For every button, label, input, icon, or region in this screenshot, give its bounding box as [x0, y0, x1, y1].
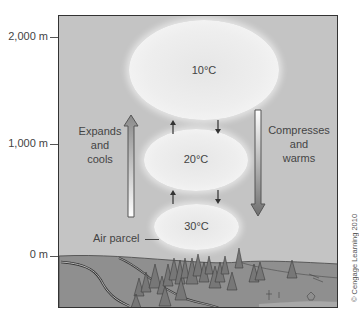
sinking-arrow-icon: [250, 109, 266, 217]
callout-leader-line: [145, 239, 159, 240]
axis-label-0m: 0 m: [0, 248, 48, 260]
expands-and-cools-label: Expands and cools: [77, 124, 123, 166]
axis-tick-0m: [50, 256, 58, 257]
parcel-temp-20c: 20°C: [144, 153, 248, 165]
axis-label-2000m: 2,000 m: [0, 30, 48, 42]
small-down-arrow-icon: [215, 120, 221, 134]
diagram-frame: 10°C 20°C 30°C Expands and cools Compr: [58, 15, 338, 308]
warms-text: warms: [265, 151, 333, 165]
cools-text: cools: [77, 152, 123, 166]
and-text-left: and: [77, 138, 123, 152]
small-up-arrow-icon: [170, 120, 176, 134]
copyright-credit: © Cengage Learning 2010: [341, 222, 351, 302]
parcel-temp-30c: 30°C: [154, 220, 239, 232]
axis-tick-2000m: [50, 37, 58, 38]
expands-text: Expands: [77, 124, 123, 138]
air-parcel-20c: 20°C: [144, 129, 248, 191]
compresses-and-warms-label: Compresses and warms: [265, 123, 333, 165]
small-up-arrow-icon: [170, 190, 176, 204]
credit-text: © Cengage Learning 2010: [350, 214, 359, 302]
rising-arrow-icon: [123, 114, 139, 218]
small-down-arrow-icon: [215, 190, 221, 204]
axis-label-1000m: 1,000 m: [0, 137, 48, 149]
parcel-temp-10c: 10°C: [129, 64, 279, 76]
air-parcel-callout: Air parcel: [93, 232, 139, 244]
and-text-right: and: [265, 137, 333, 151]
air-parcel-10c: 10°C: [129, 20, 279, 120]
axis-tick-1000m: [50, 144, 58, 145]
ground-landscape: [59, 244, 338, 308]
compresses-text: Compresses: [265, 123, 333, 137]
